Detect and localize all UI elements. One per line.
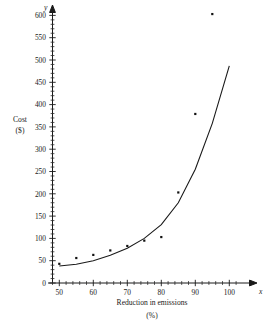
data-point <box>211 13 213 15</box>
x-axis-variable-label: x <box>258 287 263 296</box>
x-tick-label: 90 <box>192 288 200 297</box>
data-point <box>177 191 179 193</box>
y-tick-label: 350 <box>35 123 46 132</box>
y-tick-label: 50 <box>39 256 47 265</box>
y-tick-label: 400 <box>35 100 46 109</box>
data-point <box>92 254 94 256</box>
chart-container: 050100150200250300350400450500550600 506… <box>0 0 271 324</box>
y-tick-label: 0 <box>42 279 46 288</box>
data-point <box>75 257 77 259</box>
y-tick-label: 600 <box>35 11 46 20</box>
x-tick-label: 70 <box>124 288 132 297</box>
x-tick-label: 60 <box>90 288 98 297</box>
y-tick-label: 200 <box>35 190 46 199</box>
data-point <box>58 263 60 265</box>
y-tick-label: 150 <box>35 212 46 221</box>
x-tick-label: 80 <box>158 288 166 297</box>
y-tick-label: 300 <box>35 145 46 154</box>
scatter-plot-svg: 050100150200250300350400450500550600 506… <box>0 0 271 324</box>
x-tick-label: 100 <box>224 288 235 297</box>
y-tick-label: 550 <box>35 33 46 42</box>
y-tick-label: 250 <box>35 167 46 176</box>
x-axis-arrow <box>250 280 258 286</box>
y-axis-title: Cost <box>13 115 28 124</box>
data-point <box>194 113 196 115</box>
axes-group <box>48 5 257 286</box>
data-point <box>143 240 145 242</box>
y-axis-tick-labels: 050100150200250300350400450500550600 <box>35 11 46 288</box>
fit-curve-line <box>59 66 229 266</box>
x-axis-tick-labels: 5060708090100 <box>56 288 236 297</box>
data-point <box>126 245 128 247</box>
x-axis-unit: (%) <box>146 311 158 320</box>
y-tick-label: 100 <box>35 234 46 243</box>
y-axis-unit: ($) <box>16 126 25 135</box>
x-axis-title: Reduction in emissions <box>117 298 188 307</box>
y-tick-label: 450 <box>35 78 46 87</box>
y-axis-arrow <box>50 5 56 13</box>
data-point <box>160 236 162 238</box>
y-tick-label: 500 <box>35 56 46 65</box>
y-axis-variable-label: y <box>43 3 48 12</box>
data-point <box>109 249 111 251</box>
data-point-group <box>58 13 213 265</box>
x-tick-label: 50 <box>56 288 64 297</box>
